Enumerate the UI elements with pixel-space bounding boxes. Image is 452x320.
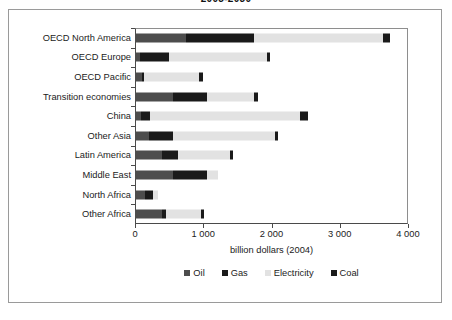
chart-title: 2005-2030 [0, 0, 452, 4]
y-axis-tick [131, 106, 135, 107]
bar-row: North Africa [135, 185, 408, 205]
y-axis-tick [131, 204, 135, 205]
category-label: China [107, 111, 131, 121]
legend-swatch-oil-icon [184, 270, 190, 276]
bar-row: Other Africa [135, 204, 408, 224]
stacked-bar[interactable] [135, 53, 270, 62]
x-axis-tick-label: 3 000 [328, 229, 351, 239]
legend-label: Electricity [274, 268, 314, 278]
legend-item-oil[interactable]: Oil [184, 268, 204, 278]
stacked-bar[interactable] [135, 190, 158, 199]
bar-segment-gas [141, 112, 150, 121]
bar-segment-oil [135, 92, 173, 101]
bar-row: Middle East [135, 165, 408, 185]
legend-label: Gas [231, 268, 248, 278]
bar-segment-coal [275, 131, 278, 140]
x-axis-tick-label: 0 [132, 229, 137, 239]
category-label: OECD Pacific [74, 72, 131, 82]
bar-segment-gas [173, 170, 207, 179]
chart-legend: OilGasElectricityCoal [135, 268, 408, 278]
bar-segment-oil [135, 170, 173, 179]
bar-row: Other Asia [135, 126, 408, 146]
category-label: Other Africa [82, 209, 131, 219]
category-label: OECD Europe [72, 52, 131, 62]
y-axis-tick [131, 67, 135, 68]
bar-segment-oil [135, 131, 149, 140]
bar-segment-electricity [153, 190, 158, 199]
bar-segment-gas [149, 131, 173, 140]
category-label: OECD North America [43, 33, 131, 43]
chart-figure: 2005-2030 OECD North AmericaOECD EuropeO… [0, 0, 452, 320]
x-axis-tick [135, 224, 136, 228]
bar-segment-gas [173, 92, 208, 101]
x-axis-tick [340, 224, 341, 228]
bar-segment-oil [135, 72, 142, 81]
x-axis-tick [272, 224, 273, 228]
stacked-bar[interactable] [135, 33, 390, 42]
bar-segment-coal [199, 72, 202, 81]
y-axis-tick [131, 28, 135, 29]
stacked-bar[interactable] [135, 210, 204, 219]
bar-segment-electricity [169, 53, 267, 62]
y-axis-tick [131, 185, 135, 186]
bar-segment-electricity [254, 33, 383, 42]
bar-segment-oil [135, 151, 162, 160]
legend-item-gas[interactable]: Gas [222, 268, 248, 278]
category-label: Latin America [75, 150, 131, 160]
bar-segment-gas [145, 190, 153, 199]
legend-swatch-gas-icon [222, 270, 228, 276]
y-axis-tick [131, 146, 135, 147]
legend-label: Oil [193, 268, 204, 278]
x-axis-tick [408, 224, 409, 228]
bar-segment-coal [267, 53, 270, 62]
legend-swatch-electricity-icon [265, 270, 271, 276]
y-axis-tick [131, 48, 135, 49]
bar-segment-oil [135, 190, 145, 199]
bar-segment-electricity [207, 92, 254, 101]
bar-segment-electricity [166, 210, 201, 219]
x-axis-tick-label: 4 000 [396, 229, 419, 239]
bar-segment-electricity [207, 170, 218, 179]
legend-item-coal[interactable]: Coal [331, 268, 359, 278]
y-axis-tick [131, 126, 135, 127]
stacked-bar[interactable] [135, 92, 258, 101]
x-axis-tick [203, 224, 204, 228]
y-axis-tick [131, 165, 135, 166]
x-axis-title: billion dollars (2004) [135, 245, 408, 255]
bar-segment-oil [135, 33, 186, 42]
bar-row: OECD North America [135, 28, 408, 48]
stacked-bar[interactable] [135, 131, 278, 140]
bar-row: OECD Pacific [135, 67, 408, 87]
bar-segment-electricity [178, 151, 230, 160]
bar-segment-coal [254, 92, 257, 101]
bar-row: Latin America [135, 146, 408, 166]
bar-segment-coal [383, 33, 391, 42]
bar-row: China [135, 106, 408, 126]
category-label: North Africa [82, 190, 131, 200]
category-label: Other Asia [88, 131, 131, 141]
bar-segment-coal [230, 151, 233, 160]
stacked-bar[interactable] [135, 170, 218, 179]
y-axis-tick [131, 87, 135, 88]
legend-swatch-coal-icon [331, 270, 337, 276]
bar-row: OECD Europe [135, 48, 408, 68]
x-axis-tick-label: 2 000 [260, 229, 283, 239]
legend-item-electricity[interactable]: Electricity [265, 268, 314, 278]
bar-segment-oil [135, 210, 162, 219]
bar-segment-gas [186, 33, 254, 42]
bar-segment-coal [300, 112, 308, 121]
x-axis-tick-label: 1 000 [192, 229, 215, 239]
bar-rows: OECD North AmericaOECD EuropeOECD Pacifi… [135, 28, 408, 224]
stacked-bar[interactable] [135, 112, 308, 121]
category-label: Middle East [82, 170, 131, 180]
bar-segment-electricity [150, 112, 300, 121]
bar-segment-electricity [144, 72, 199, 81]
bar-segment-gas [140, 53, 169, 62]
bar-segment-electricity [173, 131, 275, 140]
bar-segment-gas [162, 151, 178, 160]
category-label: Transition economies [43, 92, 131, 102]
stacked-bar[interactable] [135, 72, 203, 81]
bar-segment-coal [201, 210, 203, 219]
bar-row: Transition economies [135, 87, 408, 107]
stacked-bar[interactable] [135, 151, 233, 160]
